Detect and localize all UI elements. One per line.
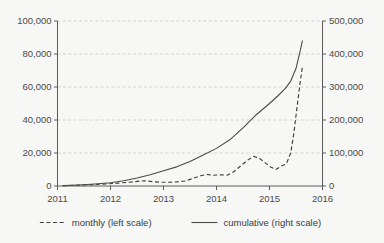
y-axis-right-tick-label: 0 (329, 180, 334, 191)
x-axis-tick-label: 2012 (100, 193, 121, 204)
y-axis-right-tick-label: 300,000 (329, 81, 363, 92)
y-axis-right-tick-label: 100,000 (329, 147, 363, 158)
chart-container: 020,00040,00060,00080,000100,0000100,000… (0, 0, 384, 243)
y-axis-left-tick-label: 100,000 (17, 15, 51, 26)
y-axis-left-tick-label: 20,000 (22, 147, 51, 158)
x-axis-tick-label: 2016 (312, 193, 333, 204)
dual-axis-line-chart: 020,00040,00060,00080,000100,0000100,000… (0, 0, 384, 243)
y-axis-left-tick-label: 60,000 (22, 81, 51, 92)
x-axis-tick-label: 2015 (259, 193, 280, 204)
y-axis-right-tick-label: 200,000 (329, 114, 363, 125)
y-axis-left-tick-label: 0 (46, 180, 51, 191)
axes (54, 21, 326, 190)
y-axis-right-tick-label: 500,000 (329, 15, 363, 26)
x-axis-tick-label: 2014 (206, 193, 227, 204)
series-lines (63, 41, 303, 186)
y-axis-left-tick-label: 40,000 (22, 114, 51, 125)
y-axis-left-tick-label: 80,000 (22, 48, 51, 59)
x-axis-tick-label: 2011 (47, 193, 67, 204)
legend-label-cumulative: cumulative (right scale) (223, 217, 321, 228)
gridlines (58, 21, 323, 153)
chart-legend: monthly (left scale)cumulative (right sc… (40, 217, 321, 228)
x-axis-tick-label: 2013 (153, 193, 174, 204)
y-axis-right-tick-label: 400,000 (329, 48, 363, 59)
legend-label-monthly: monthly (left scale) (72, 217, 152, 228)
tick-labels: 020,00040,00060,00080,000100,0000100,000… (17, 15, 363, 203)
series-line-monthly (63, 67, 303, 185)
